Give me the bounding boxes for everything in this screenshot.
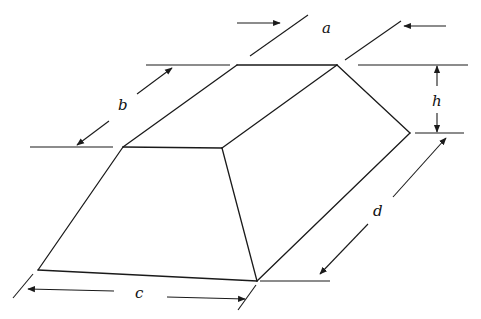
label-b: b bbox=[118, 96, 128, 114]
arrow-c-right bbox=[167, 297, 245, 299]
arrow-c-left bbox=[28, 289, 114, 291]
ext-a-right bbox=[345, 21, 401, 60]
arrow-b-upper bbox=[137, 68, 172, 94]
ext-a-left bbox=[250, 15, 308, 56]
label-h: h bbox=[432, 92, 442, 110]
solid-edges bbox=[38, 65, 410, 281]
frustum-diagram: a b h d c bbox=[0, 0, 481, 319]
label-d: d bbox=[373, 202, 383, 220]
top-face-left-edge bbox=[123, 65, 237, 147]
arrow-d-upper bbox=[393, 138, 446, 197]
ext-c-right bbox=[238, 285, 256, 310]
right-slope-top-edge bbox=[337, 65, 410, 133]
arrow-d-lower bbox=[320, 224, 368, 274]
label-a: a bbox=[322, 19, 331, 37]
label-c: c bbox=[135, 284, 144, 302]
arrow-b-lower bbox=[77, 121, 109, 145]
top-face-right-edge bbox=[222, 65, 337, 148]
ext-c-left bbox=[13, 274, 33, 298]
right-slope-bottom-edge bbox=[257, 133, 410, 281]
front-right-edge bbox=[222, 148, 257, 281]
extension-lines bbox=[13, 15, 468, 310]
top-face-front-edge bbox=[123, 147, 222, 148]
front-left-edge bbox=[38, 147, 123, 270]
base-front-edge bbox=[38, 270, 257, 281]
